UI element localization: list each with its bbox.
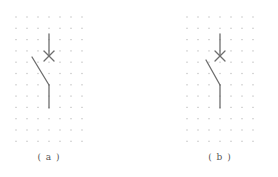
grid-dot [81,84,82,85]
switch-blade-a [32,57,49,85]
grid-dot [230,50,231,51]
grid-dot [59,84,60,85]
grid-dot [26,39,27,40]
grid-dot [70,129,71,130]
grid-dot [70,96,71,97]
grid-dot [186,107,187,108]
grid-dot [70,16,71,17]
grid-dot [241,129,242,130]
grid-dot [37,62,38,63]
grid-dot [241,62,242,63]
grid-dot [186,39,187,40]
grid-dot [252,107,253,108]
grid-dot [15,28,16,29]
grid-dot [59,39,60,40]
grid-dot [252,62,253,63]
grid-dot [59,73,60,74]
grid-dot [48,141,49,142]
grid-dot [81,107,82,108]
switch-blade-b [206,60,220,85]
grid-dot [252,96,253,97]
grid-dot [241,73,242,74]
grid-dot [241,28,242,29]
grid-dot [26,84,27,85]
grid-dot [26,16,27,17]
grid-dot [241,16,242,17]
grid-dot [81,73,82,74]
figure-label-a: ( a ) [37,152,60,162]
grid-dot [59,118,60,119]
grid-dot [37,96,38,97]
grid-dot [48,129,49,130]
grid-dot [59,16,60,17]
grid-dot [230,62,231,63]
grid-dot [186,62,187,63]
grid-dot [186,16,187,17]
grid-dot [15,84,16,85]
grid-dot [197,39,198,40]
grid-dot [15,16,16,17]
grid-dot [197,118,198,119]
grid-dot [37,84,38,85]
grid-dot [15,39,16,40]
grid-dot [252,141,253,142]
grid-dot [241,50,242,51]
grid-dot [48,16,49,17]
grid-dot [48,28,49,29]
grid-dot [59,141,60,142]
grid-dot [37,129,38,130]
grid-dot [230,73,231,74]
grid-dot [15,129,16,130]
grid-dot [230,16,231,17]
grid-dot [70,73,71,74]
grid-dot [208,118,209,119]
grid-dot [70,84,71,85]
grid-dot [37,50,38,51]
grid-dot [81,50,82,51]
grid-dot [48,62,49,63]
grid-dot [70,141,71,142]
grid-dot [37,118,38,119]
grid-dot [230,84,231,85]
grid-dot [37,28,38,29]
grid-dot [252,73,253,74]
grid-dot [197,107,198,108]
diagram-canvas [0,0,278,177]
grid-dot [59,62,60,63]
grid-dot [59,96,60,97]
grid-dot [186,28,187,29]
grid-dot [219,73,220,74]
grid-dot [197,96,198,97]
grid-dot [26,118,27,119]
grid-dot [37,107,38,108]
grid-dot [15,141,16,142]
grid-dot [81,39,82,40]
grid-dot [26,96,27,97]
grid-dot [252,118,253,119]
grid-dot [197,16,198,17]
grid-dot [208,39,209,40]
grid-dot [252,129,253,130]
grid-dot [197,84,198,85]
grid-dot [219,62,220,63]
grid-dot [230,39,231,40]
grid-dot [186,118,187,119]
grid-dot [186,73,187,74]
grid-dot [26,73,27,74]
grid-dot [70,39,71,40]
grid-dot [197,62,198,63]
grid-dot [81,141,82,142]
grid-dot [15,62,16,63]
grid-dot [15,73,16,74]
grid-dot [59,50,60,51]
grid-dot [197,50,198,51]
grid-dot [15,118,16,119]
grid-dot [37,39,38,40]
grid-dot [26,107,27,108]
grid-dot [208,96,209,97]
grid-dot [37,73,38,74]
grid-dot [81,28,82,29]
grid-dot [37,16,38,17]
grid-dot [26,62,27,63]
grid-dot [230,141,231,142]
